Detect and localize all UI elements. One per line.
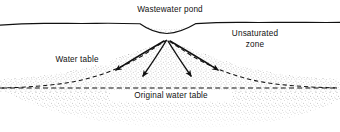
original-water-table-label: Original water table	[134, 91, 208, 100]
pond-label: Wastewater pond	[137, 5, 203, 14]
unsaturated-zone-label-line2: zone	[246, 40, 265, 49]
water-table-label: Water table	[55, 55, 99, 64]
groundwater-mound-diagram: Wastewater pond Unsaturated zone Water t…	[0, 0, 340, 132]
unsaturated-zone-label-line1: Unsaturated	[232, 29, 279, 38]
